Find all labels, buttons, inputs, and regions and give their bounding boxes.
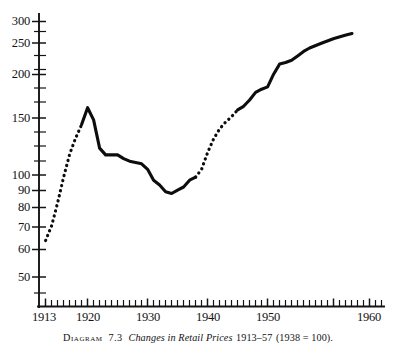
- x-tick-label-1960: 1960: [357, 310, 381, 324]
- y-tick-label-150: 150: [12, 111, 30, 125]
- y-tick-label-70: 70: [18, 220, 30, 234]
- figure-caption: Diagram7.3Changes in Retail Prices1913–5…: [0, 331, 396, 344]
- series-segment-solid-1919-1938: [82, 108, 196, 194]
- y-axis-group: 300 250 200 150 100 90 80 70 60 50: [12, 14, 46, 307]
- caption-title: Changes in Retail Prices: [129, 332, 233, 343]
- series-segment-dotted-1938-1945: [196, 110, 238, 177]
- x-tick-label-1940: 1940: [196, 310, 220, 324]
- y-tick-label-50: 50: [18, 270, 30, 284]
- y-tick-label-80: 80: [18, 200, 30, 214]
- x-tick-label-1920: 1920: [76, 310, 100, 324]
- caption-label-word: Diagram: [63, 332, 103, 343]
- y-tick-label-90: 90: [18, 183, 30, 197]
- x-axis-group: 1913 1920 1930 1940 1950 1960: [32, 299, 384, 325]
- caption-year-range: 1913–57: [236, 332, 272, 343]
- y-tick-label-60: 60: [18, 242, 30, 256]
- diagram-figure: 300 250 200 150 100 90 80 70 60 50: [0, 0, 396, 351]
- data-series-group: [46, 34, 352, 241]
- y-tick-label-100: 100: [12, 168, 30, 182]
- x-tick-label-1913: 1913: [32, 310, 56, 324]
- y-tick-label-200: 200: [12, 67, 30, 81]
- series-segment-solid-1945-1957: [238, 34, 352, 110]
- y-tick-label-250: 250: [12, 36, 30, 50]
- x-tick-label-1930: 1930: [136, 310, 160, 324]
- retail-prices-line-chart: 300 250 200 150 100 90 80 70 60 50: [0, 0, 396, 351]
- y-tick-label-300: 300: [12, 14, 30, 28]
- caption-label-number: 7.3: [109, 332, 123, 343]
- series-segment-dotted-1913-1919: [46, 125, 82, 241]
- x-tick-label-1950: 1950: [256, 310, 280, 324]
- caption-base-note: (1938 = 100).: [276, 332, 333, 343]
